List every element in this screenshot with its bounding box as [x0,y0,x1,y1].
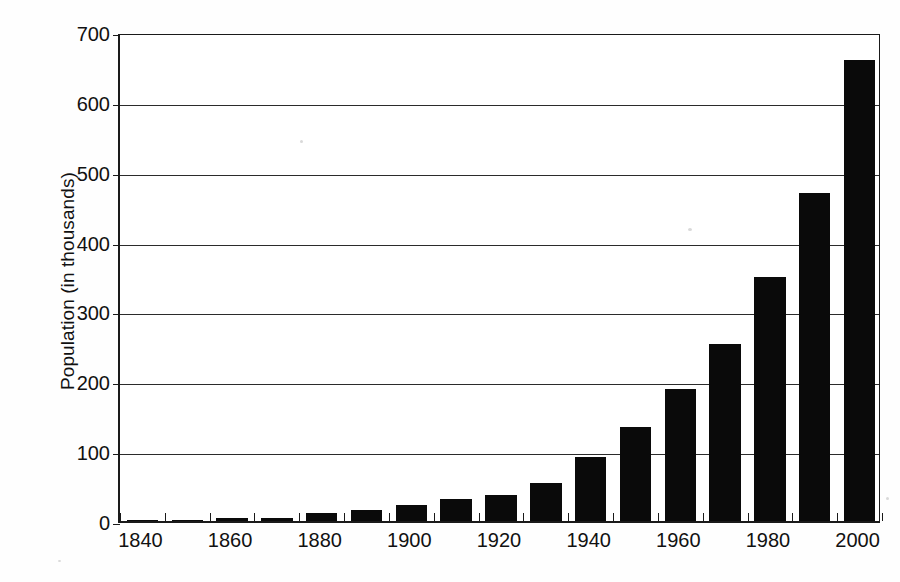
bar [665,389,696,521]
x-axis-tick-mark [748,513,749,521]
y-axis-tick-label: 200 [48,373,110,393]
x-axis-tick-mark [120,513,121,521]
x-axis-tick-label: 1900 [364,528,454,552]
y-axis-tick-label: 600 [48,94,110,114]
y-axis-tick-mark [113,524,120,525]
y-axis-tick-label: 300 [48,303,110,323]
x-axis-tick-mark [434,513,435,521]
x-axis-tick-mark [210,513,211,521]
x-axis-tick-label: 1960 [633,528,723,552]
x-axis-tick-mark [792,513,793,521]
y-axis-tick-mark [113,314,120,315]
bar [754,277,785,521]
scan-speck [58,560,61,562]
y-axis-tick-mark [113,384,120,385]
x-axis-tick-mark [254,513,255,521]
x-axis-tick-label: 2000 [813,528,900,552]
x-axis-tick-label: 1880 [275,528,365,552]
bar [575,457,606,521]
x-axis-tick-mark [479,513,480,521]
x-axis-tick-label: 1840 [95,528,185,552]
x-axis-tick-label: 1860 [185,528,275,552]
x-axis-tick-mark [613,513,614,521]
x-axis-tick-label: 1940 [544,528,634,552]
bar-series [120,35,879,521]
y-axis-tick-labels: 0100200300400500600700 [40,34,110,523]
x-axis-tick-labels: 184018601880190019201940196019802000 [118,528,880,560]
x-axis-tick-mark [299,513,300,521]
x-axis-tick-marks [120,513,879,522]
x-axis-tick-mark [658,513,659,521]
scan-speck [300,140,303,143]
x-axis-tick-label: 1980 [723,528,813,552]
x-axis-tick-mark [523,513,524,521]
y-axis-tick-label: 100 [48,443,110,463]
y-axis-tick-label: 700 [48,24,110,44]
bar [844,60,875,521]
y-axis-tick-mark [113,245,120,246]
x-axis-tick-mark [703,513,704,521]
bar-chart-figure: Population (in thousands) 01002003004005… [0,0,900,582]
y-axis-tick-mark [113,175,120,176]
scan-speck [688,228,692,231]
x-axis-tick-mark [882,513,883,521]
x-axis-tick-mark [344,513,345,521]
x-axis-tick-label: 1920 [454,528,544,552]
scan-speck [886,497,889,500]
bar [799,193,830,521]
bar [620,427,651,521]
x-axis-tick-mark [389,513,390,521]
y-axis-tick-mark [113,105,120,106]
x-axis-tick-mark [568,513,569,521]
x-axis-tick-mark [165,513,166,521]
y-axis-tick-label: 500 [48,164,110,184]
plot-area [118,34,880,523]
y-axis-tick-mark [113,35,120,36]
y-axis-tick-label: 400 [48,234,110,254]
y-axis-tick-mark [113,454,120,455]
x-axis-tick-mark [837,513,838,521]
bar [709,344,740,521]
